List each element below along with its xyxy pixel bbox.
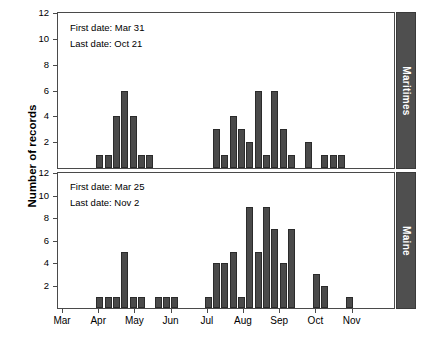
bar bbox=[221, 263, 228, 308]
y-axis-tick-mark bbox=[53, 218, 57, 219]
bar bbox=[105, 297, 112, 308]
bar bbox=[263, 207, 270, 308]
y-axis-tick-label: 6 bbox=[31, 86, 49, 96]
figure: Number of records First date: Mar 31 Las… bbox=[0, 0, 437, 347]
x-axis-tick-label: Jun bbox=[151, 316, 191, 326]
y-axis-tick-mark bbox=[53, 173, 57, 174]
x-axis-tick-label: Nov bbox=[332, 316, 372, 326]
bar bbox=[271, 91, 278, 169]
bar bbox=[255, 252, 262, 308]
x-axis-tick-mark bbox=[315, 309, 316, 313]
bar bbox=[163, 297, 170, 308]
x-axis-tick-mark bbox=[243, 309, 244, 313]
x-axis-tick-label: Aug bbox=[223, 316, 263, 326]
x-axis-tick-mark bbox=[352, 309, 353, 313]
bar bbox=[171, 297, 178, 308]
y-axis-tick-mark bbox=[53, 241, 57, 242]
bar bbox=[130, 116, 137, 168]
bar bbox=[338, 155, 345, 168]
bar bbox=[246, 207, 253, 308]
x-axis-tick-mark bbox=[171, 309, 172, 313]
panel-strip-maritimes: Maritimes bbox=[396, 12, 416, 169]
bar bbox=[238, 297, 245, 308]
bar bbox=[205, 297, 212, 308]
x-axis-tick-label: Mar bbox=[42, 316, 82, 326]
y-axis-tick-label: 10 bbox=[31, 34, 49, 44]
bar bbox=[288, 229, 295, 308]
bar bbox=[288, 155, 295, 168]
bar bbox=[313, 274, 320, 308]
bar bbox=[138, 155, 145, 168]
y-axis-tick-label: 6 bbox=[31, 236, 49, 246]
y-axis-label: Number of records bbox=[26, 76, 38, 236]
bar bbox=[255, 91, 262, 169]
x-axis-tick-label: Oct bbox=[295, 316, 335, 326]
y-axis-tick-label: 8 bbox=[31, 60, 49, 70]
panel-strip-label-maritimes: Maritimes bbox=[401, 66, 412, 115]
bar bbox=[246, 142, 253, 168]
y-axis-tick-mark bbox=[53, 142, 57, 143]
bar bbox=[96, 155, 103, 168]
y-axis-tick-label: 12 bbox=[31, 8, 49, 18]
bar bbox=[121, 252, 128, 308]
bar bbox=[346, 297, 353, 308]
bar bbox=[230, 252, 237, 308]
panel-maritimes: First date: Mar 31 Last date: Oct 21 bbox=[57, 12, 395, 169]
y-axis-tick-mark bbox=[53, 91, 57, 92]
bar bbox=[213, 129, 220, 168]
bars-maritimes bbox=[58, 13, 394, 168]
bar bbox=[305, 142, 312, 168]
x-axis-tick-mark bbox=[279, 309, 280, 313]
y-axis-tick-label: 4 bbox=[31, 258, 49, 268]
bar bbox=[130, 297, 137, 308]
y-axis-tick-mark bbox=[53, 39, 57, 40]
x-axis-tick-mark bbox=[134, 309, 135, 313]
x-axis-tick-label: Apr bbox=[78, 316, 118, 326]
panel-maine: First date: Mar 25 Last date: Nov 2 bbox=[57, 172, 395, 309]
y-axis-tick-mark bbox=[53, 263, 57, 264]
bar bbox=[330, 155, 337, 168]
y-axis-tick-label: 4 bbox=[31, 111, 49, 121]
y-axis-tick-label: 2 bbox=[31, 137, 49, 147]
y-axis-tick-label: 10 bbox=[31, 191, 49, 201]
bar bbox=[280, 263, 287, 308]
y-axis-tick-label: 2 bbox=[31, 281, 49, 291]
x-axis-tick-mark bbox=[98, 309, 99, 313]
x-axis-tick-mark bbox=[62, 309, 63, 313]
x-axis-tick-label: May bbox=[114, 316, 154, 326]
bar bbox=[121, 91, 128, 169]
y-axis-tick-label: 12 bbox=[31, 168, 49, 178]
bar bbox=[113, 116, 120, 168]
bar bbox=[238, 129, 245, 168]
bar bbox=[221, 155, 228, 168]
bar bbox=[113, 297, 120, 308]
bar bbox=[280, 129, 287, 168]
x-axis-tick-label: Sep bbox=[259, 316, 299, 326]
bar bbox=[213, 263, 220, 308]
bar bbox=[321, 286, 328, 309]
bar bbox=[138, 297, 145, 308]
x-axis-tick-label: Jul bbox=[187, 316, 227, 326]
x-axis-tick-mark bbox=[207, 309, 208, 313]
bar bbox=[146, 155, 153, 168]
y-axis-tick-mark bbox=[53, 116, 57, 117]
bar bbox=[263, 155, 270, 168]
bar bbox=[271, 229, 278, 308]
bar bbox=[230, 116, 237, 168]
y-axis-tick-label: 8 bbox=[31, 213, 49, 223]
y-axis-tick-mark bbox=[53, 286, 57, 287]
bar bbox=[96, 297, 103, 308]
bar bbox=[155, 297, 162, 308]
y-axis-tick-mark bbox=[53, 13, 57, 14]
panel-strip-label-maine: Maine bbox=[401, 226, 412, 256]
bars-maine bbox=[58, 173, 394, 308]
y-axis-tick-mark bbox=[53, 65, 57, 66]
bar bbox=[105, 155, 112, 168]
panel-strip-maine: Maine bbox=[396, 172, 416, 309]
y-axis-tick-mark bbox=[53, 196, 57, 197]
bar bbox=[321, 155, 328, 168]
